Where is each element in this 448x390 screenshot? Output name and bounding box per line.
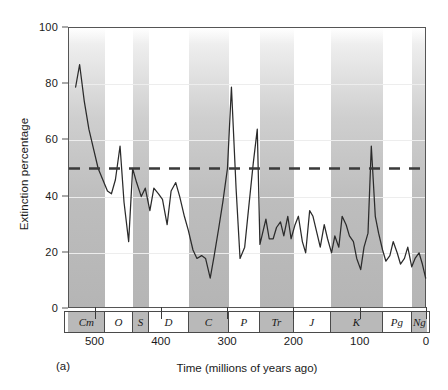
x-tick-mark-100 — [360, 307, 361, 319]
y-tick-label-100: 100 — [39, 22, 58, 33]
x-tick-mark-300 — [227, 307, 228, 319]
extinction-chart-figure: Extinction percentage 020406080100 CmOSD… — [0, 0, 448, 390]
y-tick-label-60: 60 — [45, 134, 58, 145]
x-tick-label-0: 0 — [423, 335, 429, 347]
period-cell-k: K — [331, 312, 383, 332]
period-cell-ng: Ng — [412, 312, 427, 332]
period-label: Tr — [271, 316, 281, 328]
x-axis: 5004003002001000 — [68, 335, 426, 343]
x-tick-label-400: 400 — [151, 335, 170, 347]
period-cell-c: C — [189, 312, 229, 332]
y-tick-label-40: 40 — [45, 190, 58, 201]
period-cell-p: P — [229, 312, 260, 332]
period-label: P — [240, 316, 247, 328]
period-label: J — [309, 316, 314, 328]
period-label: Ng — [413, 316, 426, 328]
period-cell-cm: Cm — [68, 312, 105, 332]
period-label: Pg — [391, 316, 403, 328]
x-tick-label-100: 100 — [350, 335, 369, 347]
x-tick-mark-200 — [293, 307, 294, 319]
period-cell-s: S — [133, 312, 150, 332]
extinction-data-line — [76, 65, 426, 279]
period-label: Cm — [79, 316, 94, 328]
x-tick-label-500: 500 — [85, 335, 104, 347]
y-axis: Extinction percentage 020406080100 — [0, 0, 68, 335]
period-cell-o: O — [105, 312, 132, 332]
period-cell-pg: Pg — [383, 312, 412, 332]
plot-area — [68, 27, 426, 308]
panel-label: (a) — [56, 360, 70, 372]
geologic-period-bar: CmOSDCPTrJKPgNg — [64, 311, 430, 333]
y-tick-label-0: 0 — [52, 303, 58, 314]
period-label: D — [165, 316, 173, 328]
x-tick-mark-500 — [95, 307, 96, 319]
period-cell-tr: Tr — [260, 312, 294, 332]
period-label: O — [115, 316, 123, 328]
y-axis-title: Extinction percentage — [18, 54, 30, 294]
y-tick-label-20: 20 — [45, 246, 58, 257]
period-label: C — [205, 316, 212, 328]
x-tick-label-300: 300 — [218, 335, 237, 347]
x-tick-mark-400 — [161, 307, 162, 319]
data-line-layer — [69, 28, 427, 309]
period-label: S — [138, 316, 144, 328]
x-tick-label-200: 200 — [284, 335, 303, 347]
x-axis-title: Time (millions of years ago) — [68, 362, 426, 374]
period-cell-j: J — [294, 312, 331, 332]
period-cell-d: D — [149, 312, 189, 332]
x-tick-mark-0 — [426, 307, 427, 319]
y-tick-label-80: 80 — [45, 78, 58, 89]
